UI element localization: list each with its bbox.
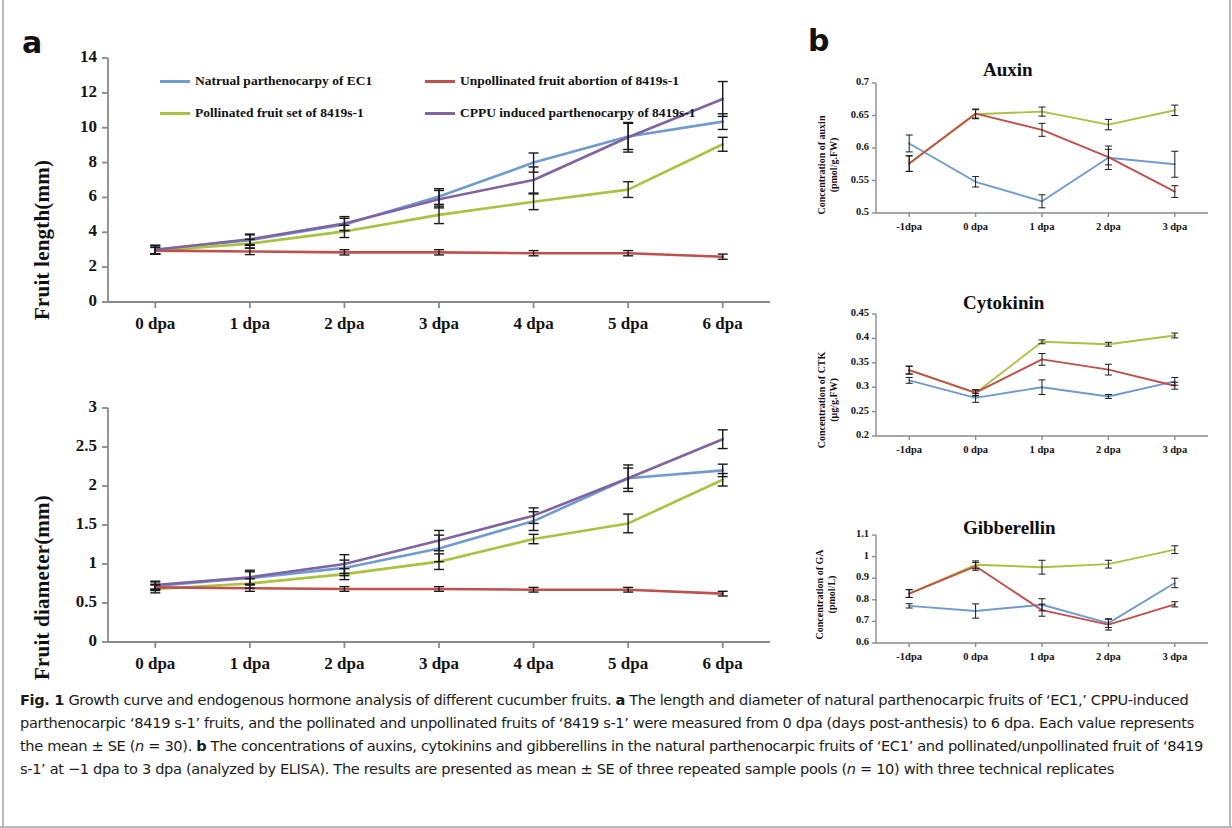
x-tick-label-auxin: 3 dpa xyxy=(1130,221,1220,232)
y-axis-title-auxin-line1: Concentration of auxin xyxy=(816,90,828,240)
x-tick-label-fruit-length: 6 dpa xyxy=(678,314,768,334)
legend-swatch-unpollinated-8419 xyxy=(425,80,455,83)
panel-title-cytokinin: Cytokinin xyxy=(963,292,1044,314)
y-tick-label-fruit-length: 2 xyxy=(63,256,97,276)
legend-label-cppu-8419: CPPU induced parthenocarpy of 8419s-1 xyxy=(460,105,696,121)
y-tick-label-fruit-length: 8 xyxy=(63,152,97,172)
chart-fruit-diameter: Fruit diameter(mm) 00.511.522.530 dpa1 d… xyxy=(0,390,800,690)
x-tick-label-fruit-diameter: 0 dpa xyxy=(110,654,200,674)
y-tick-label-fruit-length: 0 xyxy=(63,291,97,311)
y-tick-label-gibberellin: 0.8 xyxy=(841,593,869,604)
legend-label-natural-ec1: Natrual parthenocarpy of EC1 xyxy=(195,73,372,89)
y-tick-label-fruit-length: 6 xyxy=(63,186,97,206)
y-tick-label-gibberellin: 0.9 xyxy=(841,571,869,582)
caption-a-letter: a xyxy=(615,691,625,708)
chart-cytokinin: Concentration of CTK (μg/g.FW) Cytokinin… xyxy=(808,290,1228,505)
legend-item-natural-ec1[interactable]: Natrual parthenocarpy of EC1 xyxy=(160,73,372,89)
caption-n2: n xyxy=(847,760,856,777)
figure-caption: Fig. 1 Growth curve and endogenous hormo… xyxy=(20,688,1216,780)
y-tick-label-fruit-length: 4 xyxy=(63,221,97,241)
x-tick-label-fruit-length: 5 dpa xyxy=(583,314,673,334)
plot-area-gibberellin xyxy=(808,515,1228,690)
y-tick-label-auxin: 0.55 xyxy=(837,174,869,185)
legend-swatch-natural-ec1 xyxy=(160,80,190,83)
y-tick-label-gibberellin: 1.1 xyxy=(841,528,869,539)
y-tick-label-gibberellin: 1 xyxy=(841,550,869,561)
caption-main-text: Growth curve and endogenous hormone anal… xyxy=(64,691,615,708)
y-tick-label-fruit-length: 12 xyxy=(63,82,97,102)
plot-area-fruit-diameter xyxy=(0,390,800,690)
legend-swatch-cppu-8419 xyxy=(425,112,455,115)
plot-area-fruit-length xyxy=(0,40,800,350)
x-tick-label-cytokinin: 3 dpa xyxy=(1130,444,1220,455)
y-tick-label-auxin: 0.65 xyxy=(837,109,869,120)
x-tick-label-gibberellin: 3 dpa xyxy=(1130,651,1220,662)
y-tick-label-fruit-length: 10 xyxy=(63,117,97,137)
y-tick-label-auxin: 0.5 xyxy=(837,206,869,217)
y-tick-label-cytokinin: 0.35 xyxy=(837,356,869,367)
x-tick-label-fruit-length: 1 dpa xyxy=(205,314,295,334)
x-tick-label-fruit-diameter: 2 dpa xyxy=(299,654,389,674)
y-axis-title-cytokinin-line2: (μg/g.FW) xyxy=(828,325,840,475)
y-axis-title-gibberellin: Concentration of GA (pmol/L) xyxy=(814,522,837,667)
y-tick-label-fruit-diameter: 1 xyxy=(57,553,97,573)
page-right-rule xyxy=(1229,0,1231,828)
y-tick-label-cytokinin: 0.25 xyxy=(837,405,869,416)
x-tick-label-fruit-length: 4 dpa xyxy=(489,314,579,334)
chart-fruit-length: Fruit length(mm) 024681012140 dpa1 dpa2 … xyxy=(0,40,800,350)
panel-title-auxin: Auxin xyxy=(983,59,1033,81)
y-axis-title-fruit-length: Fruit length(mm) xyxy=(30,160,55,320)
x-tick-label-fruit-diameter: 4 dpa xyxy=(489,654,579,674)
y-tick-label-fruit-diameter: 1.5 xyxy=(57,514,97,534)
y-tick-label-cytokinin: 0.4 xyxy=(837,331,869,342)
y-tick-label-cytokinin: 0.3 xyxy=(837,380,869,391)
panel-title-gibberellin: Gibberellin xyxy=(963,517,1056,539)
plot-area-auxin xyxy=(808,55,1228,270)
chart-auxin: Concentration of auxin (pmol/g.FW) Auxin… xyxy=(808,55,1228,270)
y-tick-label-fruit-diameter: 3 xyxy=(57,397,97,417)
x-tick-label-fruit-length: 3 dpa xyxy=(394,314,484,334)
plot-area-cytokinin xyxy=(808,290,1228,505)
y-tick-label-gibberellin: 0.7 xyxy=(841,614,869,625)
legend-label-unpollinated-8419: Unpollinated fruit abortion of 8419s-1 xyxy=(460,73,679,89)
caption-b-letter: b xyxy=(196,737,206,754)
x-tick-label-fruit-length: 2 dpa xyxy=(299,314,389,334)
y-tick-label-auxin: 0.6 xyxy=(837,141,869,152)
legend-item-pollinated-8419[interactable]: Pollinated fruit set of 8419s-1 xyxy=(160,105,364,121)
y-tick-label-fruit-diameter: 0 xyxy=(57,631,97,651)
x-tick-label-fruit-diameter: 5 dpa xyxy=(583,654,673,674)
panel-label-b: b xyxy=(808,26,829,56)
x-tick-label-fruit-length: 0 dpa xyxy=(110,314,200,334)
y-tick-label-auxin: 0.7 xyxy=(837,76,869,87)
y-tick-label-fruit-diameter: 0.5 xyxy=(57,592,97,612)
caption-n1-value: = 30). xyxy=(144,737,196,754)
x-tick-label-fruit-diameter: 6 dpa xyxy=(678,654,768,674)
x-tick-label-fruit-diameter: 3 dpa xyxy=(394,654,484,674)
y-tick-label-cytokinin: 0.45 xyxy=(837,307,869,318)
legend-swatch-pollinated-8419 xyxy=(160,112,190,115)
y-tick-label-fruit-length: 14 xyxy=(63,47,97,67)
caption-n1: n xyxy=(135,737,144,754)
y-tick-label-fruit-diameter: 2 xyxy=(57,475,97,495)
chart-gibberellin: Concentration of GA (pmol/L) Gibberellin… xyxy=(808,515,1228,690)
y-axis-title-gibberellin-line2: (pmol/L) xyxy=(826,522,838,667)
legend-item-unpollinated-8419[interactable]: Unpollinated fruit abortion of 8419s-1 xyxy=(425,73,679,89)
y-axis-title-fruit-diameter: Fruit diameter(mm) xyxy=(30,495,55,680)
y-tick-label-gibberellin: 0.6 xyxy=(841,636,869,647)
y-axis-title-cytokinin: Concentration of CTK (μg/g.FW) xyxy=(816,325,839,475)
y-axis-title-gibberellin-line1: Concentration of GA xyxy=(814,522,826,667)
figure-root: a b Fruit length(mm) 024681012140 dpa1 d… xyxy=(0,0,1232,828)
caption-n2-value: = 10) with three technical replicates xyxy=(856,760,1114,777)
legend-label-pollinated-8419: Pollinated fruit set of 8419s-1 xyxy=(195,105,364,121)
y-tick-label-cytokinin: 0.2 xyxy=(837,429,869,440)
caption-fig-label: Fig. 1 xyxy=(20,691,64,708)
y-tick-label-fruit-diameter: 2.5 xyxy=(57,436,97,456)
x-tick-label-fruit-diameter: 1 dpa xyxy=(205,654,295,674)
y-axis-title-cytokinin-line1: Concentration of CTK xyxy=(816,325,828,475)
legend-item-cppu-8419[interactable]: CPPU induced parthenocarpy of 8419s-1 xyxy=(425,105,696,121)
y-axis-title-auxin: Concentration of auxin (pmol/g.FW) xyxy=(816,90,839,240)
